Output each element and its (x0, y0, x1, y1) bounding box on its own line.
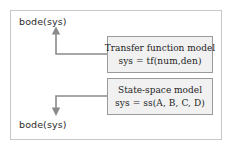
connector-line-up (56, 31, 107, 54)
diagram-canvas: bode(sys) Transfer function model sys = … (0, 0, 235, 147)
arrowhead-down-icon (52, 108, 60, 117)
transfer-function-title: Transfer function model (105, 42, 215, 55)
connector-transfer-function-up (52, 27, 107, 55)
transfer-function-model-box: Transfer function model sys = tf(num,den… (107, 36, 213, 73)
state-space-title: State-space model (118, 84, 202, 97)
connector-state-space-down (52, 96, 107, 116)
state-space-syntax: sys = ss(A, B, C, D) (115, 97, 205, 110)
bode-label-top: bode(sys) (19, 16, 67, 27)
state-space-model-box: State-space model sys = ss(A, B, C, D) (107, 78, 213, 115)
arrowhead-up-icon (52, 27, 60, 35)
transfer-function-syntax: sys = tf(num,den) (118, 55, 201, 68)
bode-label-bottom: bode(sys) (19, 119, 67, 130)
connector-line-down (56, 96, 107, 110)
